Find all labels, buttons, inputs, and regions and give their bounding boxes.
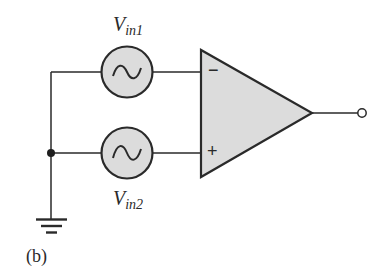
- vin2-label: Vin2: [113, 187, 143, 213]
- ac-source-vin1-icon: [102, 47, 153, 98]
- ac-source-vin2-icon: [102, 128, 153, 179]
- vin1-label-main: V: [113, 13, 125, 35]
- ground-icon: [36, 220, 67, 233]
- output-terminal-icon: [358, 109, 366, 117]
- vin2-label-sub: in2: [125, 197, 143, 212]
- noninverting-input-symbol: +: [207, 141, 218, 162]
- circuit-diagram: [0, 0, 392, 274]
- figure-caption: (b): [26, 246, 47, 267]
- inverting-input-symbol: −: [208, 60, 219, 81]
- vin1-label-sub: in1: [125, 23, 143, 38]
- vin2-label-main: V: [113, 187, 125, 209]
- vin1-label: Vin1: [113, 13, 143, 39]
- junction-dot: [47, 149, 55, 157]
